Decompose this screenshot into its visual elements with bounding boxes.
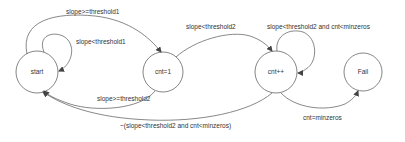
edge-cnt1-to-cntpp: [176, 34, 272, 57]
edge-label-cnt1-to-cntpp: slope<threshold2: [186, 24, 236, 31]
edge-label-cnt1-to-start: slope>=threshold2: [97, 96, 151, 103]
edge-cntpp-to-fail: [281, 91, 358, 108]
state-diagram: start cnt=1 cnt++ Fail slope>=threshold1…: [0, 0, 405, 142]
edge-label-start-to-cnt1: slope>=threshold1: [66, 9, 120, 16]
state-cnt1-label: cnt=1: [155, 69, 171, 76]
edge-label-cntpp-self-loop: slope<threshold2 and cnt<minzeros: [267, 24, 370, 31]
state-fail-label: Fail: [358, 69, 368, 76]
edge-label-cntpp-to-start: ~(slope<threshold2 and cnt<minzeros): [120, 123, 231, 130]
edge-label-start-self-loop: slope<threshold1: [76, 39, 126, 46]
diagram-edges: [0, 0, 405, 142]
state-cntpp-label: cnt++: [268, 69, 284, 76]
edge-label-cntpp-to-fail: cnt=minzeros: [303, 115, 342, 122]
state-start-label: start: [31, 69, 44, 76]
edge-start-to-cnt1: [26, 15, 161, 54]
